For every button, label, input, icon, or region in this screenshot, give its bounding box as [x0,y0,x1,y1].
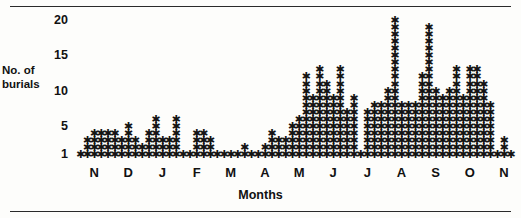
x-axis-tick-8-J: J [358,166,376,179]
y-axis-tick-10: 10 [34,85,68,98]
x-axis-title: Months [0,188,521,202]
y-axis-tick-1: 1 [34,148,68,161]
x-axis-tick-3-F: F [188,166,206,179]
data-column [506,14,515,162]
x-axis-tick-7-J: J [324,166,342,179]
figure-top-rule [10,6,511,7]
x-axis-tick-10-S: S [427,166,445,179]
x-axis-tick-1-D: D [119,166,137,179]
y-axis-tick-labels: 20151051 [34,0,68,218]
burial-marker [506,150,515,159]
x-axis-tick-5-A: A [256,166,274,179]
x-axis-tick-11-O: O [461,166,479,179]
y-axis-tick-20: 20 [34,14,68,27]
x-axis-tick-2-J: J [153,166,171,179]
plot-area [74,14,511,162]
x-axis-tick-0-N: N [85,166,103,179]
x-axis-tick-6-M: M [290,166,308,179]
x-axis-tick-labels: NDJFMAMJJASON [0,166,521,184]
x-axis-tick-12-N: N [495,166,513,179]
y-axis-tick-15: 15 [34,49,68,62]
burials-star-plot-figure: No. of burials 20151051 NDJFMAMJJASON Mo… [0,0,521,218]
y-axis-tick-5: 5 [34,120,68,133]
x-axis-tick-9-A: A [393,166,411,179]
figure-bottom-rule [10,211,511,212]
x-axis-tick-4-M: M [222,166,240,179]
